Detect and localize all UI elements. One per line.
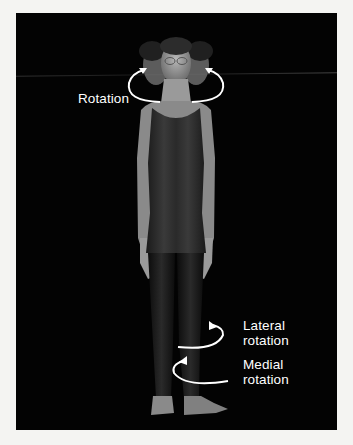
right-leg bbox=[177, 253, 204, 398]
left-foot bbox=[151, 396, 174, 415]
lateral-rotation-label-line1: Lateral bbox=[243, 318, 289, 333]
leotard-torso bbox=[146, 108, 206, 253]
lateral-rotation-label-line2: rotation bbox=[243, 333, 289, 348]
medial-rotation-label-line2: rotation bbox=[243, 372, 289, 387]
hair bbox=[160, 37, 192, 55]
neck bbox=[161, 79, 191, 103]
rotation-label: Rotation bbox=[78, 91, 129, 106]
medial-rotation-label: Medial rotation bbox=[243, 357, 289, 387]
left-leg bbox=[148, 253, 175, 398]
right-foot bbox=[184, 396, 228, 415]
anatomy-photo: Rotation Lateral rotation Medial rotatio… bbox=[16, 13, 337, 430]
medial-rotation-label-line1: Medial bbox=[243, 357, 289, 372]
human-figure bbox=[16, 13, 337, 430]
lateral-rotation-label: Lateral rotation bbox=[243, 318, 289, 348]
